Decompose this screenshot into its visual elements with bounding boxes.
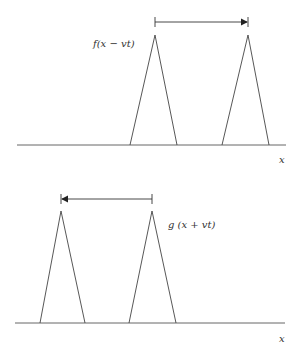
- pulse-moved-bottom: [40, 211, 85, 323]
- axis-label-x-bottom: x: [279, 333, 285, 344]
- axis-label-x-top: x: [279, 154, 285, 165]
- wave-diagram: f(x − vt) x g (x + vt) x: [0, 0, 296, 352]
- function-label-g: g (x + vt): [168, 219, 216, 230]
- function-label-f: f(x − vt): [92, 38, 135, 49]
- top-panel: f(x − vt) x: [17, 17, 286, 165]
- pulse-moved-top: [222, 35, 269, 145]
- bottom-panel: g (x + vt) x: [15, 194, 285, 344]
- pulse-initial-top: [130, 35, 177, 145]
